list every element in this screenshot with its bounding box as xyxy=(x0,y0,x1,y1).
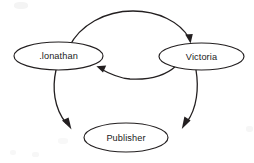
diagram-canvas: .lonathan Victoria Publisher xyxy=(0,0,254,163)
edge-jonathan-to-publisher[interactable] xyxy=(54,70,71,130)
edge-path-victoria-to-publisher xyxy=(187,70,197,122)
edge-path-jonathan-to-publisher xyxy=(54,70,66,123)
arrowhead-into-victoria xyxy=(185,34,193,43)
diagram-graph: .lonathan Victoria Publisher xyxy=(0,0,254,163)
node-victoria[interactable]: Victoria xyxy=(159,43,244,70)
edge-jonathan-to-victoria[interactable] xyxy=(69,11,193,47)
edge-victoria-to-publisher[interactable] xyxy=(182,70,197,129)
edge-victoria-to-jonathan[interactable] xyxy=(96,66,176,80)
edge-path-jonathan-to-victoria xyxy=(69,11,189,47)
node-publisher-label: Publisher xyxy=(106,133,145,143)
node-jonathan-label: .lonathan xyxy=(39,51,78,61)
node-jonathan[interactable]: .lonathan xyxy=(14,42,103,70)
edge-path-victoria-to-jonathan xyxy=(101,66,176,79)
node-victoria-label: Victoria xyxy=(186,52,218,62)
node-publisher[interactable]: Publisher xyxy=(84,123,168,152)
